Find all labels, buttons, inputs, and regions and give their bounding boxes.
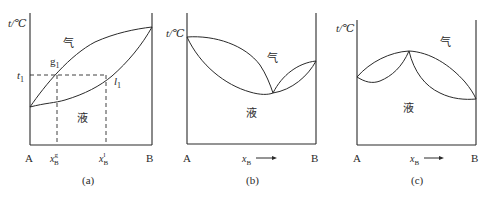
panel-b-axes	[187, 13, 316, 144]
panel-a-vapor-label: 气	[63, 36, 74, 50]
panel-c-x-axis-label: xB	[409, 153, 419, 167]
panel-a-x-right-label: B	[146, 152, 153, 164]
panel-a-tie-lines	[30, 75, 106, 145]
panel-c-caption: (c)	[411, 174, 424, 187]
panel-b-vapor-label: 气	[267, 51, 278, 65]
panel-b-x-right-label: B	[311, 152, 318, 164]
panel-a-t1-label: t1	[17, 69, 24, 84]
panel-a-xg-label: xgB	[49, 151, 59, 167]
panel-c-y-axis-label: t/℃	[336, 22, 355, 34]
panel-b-y-axis-label: t/℃	[166, 27, 185, 39]
panel-c-x-left-label: A	[353, 152, 361, 164]
phase-diagrams: t/℃ t1 g1 l1 气 液 A B xgB xlB (a) t/℃ 气 液…	[0, 0, 487, 204]
panel-b-right-bubble-curve	[273, 61, 316, 93]
panel-c-left-bubble-curve	[357, 51, 409, 82]
panel-b: t/℃ 气 液 A B xB (b)	[166, 13, 318, 187]
panel-c-x-right-label: B	[471, 152, 478, 164]
panel-a-l1-label: l1	[114, 75, 121, 90]
panel-c-vapor-label: 气	[440, 35, 451, 49]
panel-b-x-axis-label: xB	[241, 153, 251, 167]
panel-c-dew-curve	[357, 51, 476, 99]
panel-b-arrow-icon	[256, 156, 277, 160]
panel-c-liquid-label: 液	[403, 101, 414, 115]
panel-a: t/℃ t1 g1 l1 气 液 A B xgB xlB (a)	[8, 13, 153, 187]
panel-b-liquid-label: 液	[246, 106, 257, 120]
panel-a-axes	[30, 13, 152, 145]
panel-b-caption: (b)	[246, 174, 259, 187]
panel-b-left-dew-curve	[187, 37, 273, 93]
panel-c: t/℃ 气 液 A B xB (c)	[336, 20, 478, 187]
panel-a-dew-curve	[30, 27, 152, 107]
panel-c-arrow-icon	[424, 156, 444, 160]
panel-a-y-axis-label: t/℃	[8, 17, 27, 29]
panel-a-caption: (a)	[82, 174, 95, 187]
panel-a-liquid-label: 液	[77, 111, 88, 125]
panel-c-right-bubble-curve	[409, 51, 476, 99]
panel-a-bubble-curve	[30, 27, 152, 107]
panel-b-x-left-label: A	[183, 152, 191, 164]
panel-b-right-dew-curve	[273, 61, 316, 93]
panel-a-g1-label: g1	[50, 55, 60, 70]
panel-a-xl-label: xlB	[98, 151, 108, 167]
panel-a-x-left-label: A	[25, 152, 33, 164]
